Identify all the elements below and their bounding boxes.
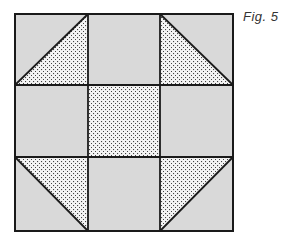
quilt-block-diagram xyxy=(0,0,283,244)
cell-center-dotted-square xyxy=(88,85,160,157)
figure-caption: Fig. 5 xyxy=(243,9,279,24)
